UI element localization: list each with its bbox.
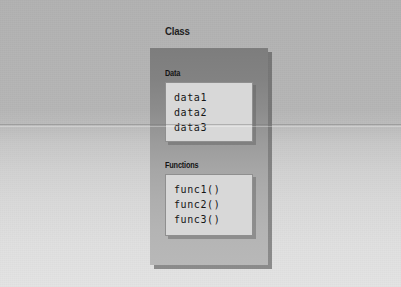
list-item: func1() (174, 182, 252, 197)
data-member-list: data1 data2 data3 (166, 83, 252, 135)
list-item: data3 (174, 120, 252, 135)
data-section-label: Data (165, 68, 180, 78)
functions-member-panel: func1() func2() func3() (165, 174, 253, 236)
list-item: func2() (174, 197, 252, 212)
functions-section-label: Functions (165, 160, 198, 170)
diagram-canvas: Class Data data1 data2 data3 Functions f… (0, 0, 401, 287)
functions-member-list: func1() func2() func3() (166, 175, 252, 227)
class-box: Data data1 data2 data3 Functions func1()… (150, 48, 268, 265)
list-item: data2 (174, 105, 252, 120)
class-label: Class (165, 25, 190, 38)
list-item: func3() (174, 212, 252, 227)
list-item: data1 (174, 90, 252, 105)
data-member-panel: data1 data2 data3 (165, 82, 253, 142)
